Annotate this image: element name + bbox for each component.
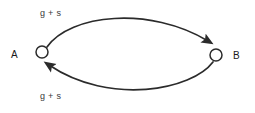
node-b-label: B (233, 51, 240, 61)
graph-diagram: A B g + s g + s (0, 0, 255, 113)
edge-b-to-a-arrow (49, 62, 213, 90)
edge-b-to-a-label: g + s (40, 92, 61, 101)
edge-a-to-b-arrow (47, 18, 208, 47)
node-b-circle (210, 49, 222, 61)
node-a-circle (36, 46, 48, 58)
edge-a-to-b-label: g + s (40, 9, 61, 18)
node-a-label: A (11, 50, 18, 60)
diagram-canvas (0, 0, 255, 113)
